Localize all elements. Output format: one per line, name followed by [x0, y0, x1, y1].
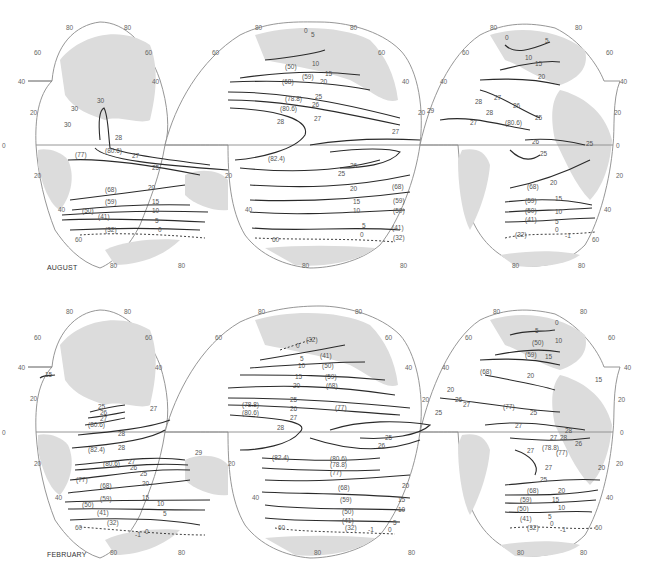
- svg-text:(59): (59): [393, 197, 405, 205]
- svg-text:10: 10: [555, 337, 563, 344]
- svg-text:15: 15: [545, 353, 553, 360]
- svg-text:25: 25: [338, 170, 346, 177]
- svg-text:0: 0: [620, 429, 624, 436]
- svg-text:(68): (68): [326, 382, 338, 390]
- svg-text:10: 10: [398, 506, 406, 513]
- svg-text:(32): (32): [306, 336, 318, 344]
- svg-text:20: 20: [614, 109, 622, 116]
- svg-text:0: 0: [555, 226, 559, 233]
- svg-text:10: 10: [555, 208, 563, 215]
- svg-text:80: 80: [580, 549, 588, 556]
- svg-text:26: 26: [455, 396, 463, 403]
- svg-text:26: 26: [312, 101, 320, 108]
- svg-text:40: 40: [155, 364, 163, 371]
- svg-text:(50): (50): [322, 362, 334, 370]
- svg-text:40: 40: [620, 78, 628, 85]
- svg-text:(50): (50): [532, 339, 544, 347]
- svg-text:20: 20: [558, 487, 566, 494]
- svg-text:20: 20: [598, 464, 606, 471]
- svg-text:25: 25: [152, 164, 160, 171]
- sea-surface-temperature-maps: 80 80 60 60 40 40 20 0 20 40 60 80 80 80…: [0, 0, 649, 579]
- svg-text:27: 27: [494, 94, 502, 101]
- svg-text:40: 40: [624, 364, 632, 371]
- svg-text:0: 0: [145, 528, 149, 535]
- svg-text:30: 30: [71, 105, 79, 112]
- svg-text:(77): (77): [335, 404, 347, 412]
- svg-text:-1: -1: [368, 526, 374, 533]
- svg-text:10: 10: [312, 60, 320, 67]
- svg-text:80: 80: [517, 549, 525, 556]
- svg-text:40: 40: [18, 364, 26, 371]
- svg-text:80: 80: [350, 24, 358, 31]
- svg-text:27: 27: [392, 128, 400, 135]
- svg-text:27: 27: [545, 464, 553, 471]
- svg-text:25: 25: [586, 140, 594, 147]
- svg-text:0: 0: [616, 142, 620, 149]
- svg-text:0: 0: [158, 226, 162, 233]
- august-map: 80 80 60 60 40 40 20 0 20 40 60 80 80 80…: [2, 22, 628, 271]
- svg-text:60: 60: [462, 49, 470, 56]
- svg-text:80: 80: [408, 549, 416, 556]
- svg-text:(77): (77): [76, 476, 88, 484]
- svg-text:5: 5: [545, 37, 549, 44]
- svg-text:40: 40: [58, 206, 66, 213]
- svg-text:5: 5: [311, 31, 315, 38]
- svg-text:20: 20: [30, 395, 38, 402]
- svg-text:80: 80: [124, 24, 132, 31]
- svg-text:60: 60: [75, 236, 83, 243]
- svg-text:26: 26: [290, 405, 298, 412]
- svg-text:(41): (41): [525, 216, 537, 224]
- australia-land: [185, 456, 228, 495]
- svg-text:(50): (50): [393, 207, 405, 215]
- svg-text:(68): (68): [392, 183, 404, 191]
- antarctica-land-3: [500, 541, 580, 556]
- svg-text:40: 40: [606, 494, 614, 501]
- svg-text:(32): (32): [393, 234, 405, 242]
- february-map: 80 80 60 60 40 40 20 0 20 40 60 80 80 80…: [2, 306, 632, 558]
- svg-text:-1: -1: [565, 232, 571, 239]
- svg-text:(77): (77): [330, 469, 342, 477]
- svg-text:27: 27: [132, 152, 140, 159]
- svg-text:15: 15: [152, 198, 160, 205]
- svg-text:25: 25: [290, 396, 298, 403]
- svg-text:60: 60: [385, 334, 393, 341]
- svg-text:(68): (68): [338, 484, 350, 492]
- svg-text:15: 15: [295, 373, 303, 380]
- svg-text:28: 28: [565, 427, 573, 434]
- svg-text:(80.6): (80.6): [103, 460, 120, 468]
- svg-text:20: 20: [447, 386, 455, 393]
- svg-text:(59): (59): [525, 197, 537, 205]
- svg-text:20: 20: [34, 460, 42, 467]
- svg-text:(77): (77): [556, 449, 568, 457]
- svg-text:(32): (32): [107, 519, 119, 527]
- svg-text:-1: -1: [560, 526, 566, 533]
- svg-text:80: 80: [314, 549, 322, 556]
- svg-text:40: 40: [252, 494, 260, 501]
- svg-text:80: 80: [512, 262, 520, 269]
- svg-text:80: 80: [178, 262, 186, 269]
- svg-text:10: 10: [157, 500, 165, 507]
- svg-text:28: 28: [560, 434, 568, 441]
- svg-text:20: 20: [618, 396, 626, 403]
- svg-text:60: 60: [215, 334, 223, 341]
- svg-text:0: 0: [296, 342, 300, 349]
- svg-text:(82.4): (82.4): [88, 446, 105, 454]
- svg-text:0: 0: [304, 27, 308, 34]
- svg-text:60: 60: [212, 49, 220, 56]
- svg-text:0: 0: [2, 142, 6, 149]
- svg-text:(59): (59): [520, 496, 532, 504]
- svg-text:27: 27: [290, 414, 298, 421]
- svg-text:80: 80: [490, 24, 498, 31]
- svg-text:80: 80: [575, 24, 583, 31]
- svg-text:60: 60: [75, 524, 83, 531]
- svg-text:26: 26: [532, 138, 540, 145]
- svg-text:(32): (32): [345, 524, 357, 532]
- svg-text:27: 27: [314, 115, 322, 122]
- svg-text:(41): (41): [97, 509, 109, 517]
- svg-text:60: 60: [272, 236, 280, 243]
- svg-text:(41): (41): [98, 213, 110, 221]
- svg-text:(80.6): (80.6): [105, 147, 122, 155]
- svg-text:(68): (68): [282, 78, 294, 86]
- svg-text:25: 25: [540, 150, 548, 157]
- svg-text:25: 25: [385, 434, 393, 441]
